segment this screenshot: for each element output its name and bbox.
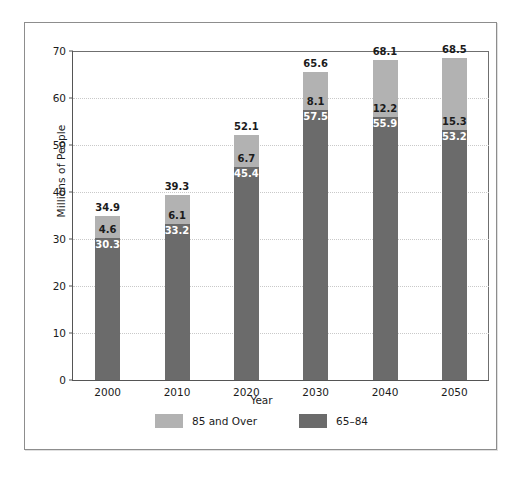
bar-segment-value-85-and-over: 6.1 [165, 211, 190, 221]
legend-swatch-icon [155, 414, 183, 428]
bar-segment-65-84[interactable]: 33.2 [165, 224, 190, 380]
chart-figure-frame: Millions of People 010203040506070 30.34… [24, 22, 497, 450]
bar-segment-85-and-over[interactable]: 6.7 [234, 135, 259, 166]
gridline [73, 333, 489, 334]
bar-total-value: 68.5 [430, 45, 479, 55]
bar-segment-value-65-84: 53.2 [442, 132, 467, 142]
y-tick-label: 30 [53, 233, 66, 245]
bar-segment-value-65-84: 45.4 [234, 169, 259, 179]
legend-item[interactable]: 85 and Over [155, 414, 257, 428]
bar-segment-85-and-over[interactable]: 8.1 [303, 72, 328, 110]
bar-group[interactable]: 53.215.368.52050 [442, 58, 467, 380]
y-tick-label: 20 [53, 280, 66, 292]
bar-segment-85-and-over[interactable]: 12.2 [373, 60, 398, 117]
plot-right-border [488, 51, 489, 380]
gridline [73, 145, 489, 146]
bar-total-value: 65.6 [291, 59, 340, 69]
legend-label: 65–84 [336, 415, 368, 427]
y-tick-mark [69, 333, 73, 334]
y-tick-mark [69, 98, 73, 99]
plot-area: 010203040506070 30.34.634.9200033.26.139… [72, 51, 489, 381]
bar-segment-value-65-84: 33.2 [165, 226, 190, 236]
bar-segment-value-85-and-over: 4.6 [95, 225, 120, 235]
bar-segment-85-and-over[interactable]: 6.1 [165, 195, 190, 224]
bar-segment-value-65-84: 55.9 [373, 119, 398, 129]
legend-swatch-icon [299, 414, 327, 428]
y-tick-label: 70 [53, 45, 66, 57]
bar-segment-65-84[interactable]: 55.9 [373, 117, 398, 380]
gridline [73, 192, 489, 193]
y-tick-label: 0 [59, 374, 66, 386]
bar-segment-value-65-84: 30.3 [95, 240, 120, 250]
bar-group[interactable]: 30.34.634.92000 [95, 216, 120, 380]
y-tick-mark [69, 192, 73, 193]
bar-segment-65-84[interactable]: 53.2 [442, 130, 467, 380]
gridline [73, 286, 489, 287]
chart-legend: 85 and Over65–84 [25, 414, 498, 428]
gridline [73, 239, 489, 240]
y-tick-mark [69, 286, 73, 287]
bar-group[interactable]: 45.46.752.12020 [234, 135, 259, 380]
bar-total-value: 52.1 [222, 122, 271, 132]
y-axis-title: Millions of People [55, 91, 67, 251]
bar-segment-85-and-over[interactable]: 15.3 [442, 58, 467, 130]
bar-segment-value-85-and-over: 12.2 [373, 104, 398, 114]
gridline [73, 98, 489, 99]
y-tick-mark [69, 239, 73, 240]
legend-item[interactable]: 65–84 [299, 414, 368, 428]
bar-group[interactable]: 57.58.165.62030 [303, 72, 328, 380]
y-tick-label: 60 [53, 92, 66, 104]
bar-segment-value-65-84: 57.5 [303, 112, 328, 122]
bar-segment-65-84[interactable]: 57.5 [303, 110, 328, 380]
legend-label: 85 and Over [192, 415, 257, 427]
y-tick-mark [69, 145, 73, 146]
bar-segment-value-85-and-over: 8.1 [303, 97, 328, 107]
bar-segment-85-and-over[interactable]: 4.6 [95, 216, 120, 238]
bar-segment-65-84[interactable]: 30.3 [95, 238, 120, 380]
y-tick-label: 10 [53, 327, 66, 339]
y-tick-mark [69, 51, 73, 52]
bar-total-value: 34.9 [83, 203, 132, 213]
bar-group[interactable]: 33.26.139.32010 [165, 195, 190, 380]
plot-top-border [73, 51, 489, 52]
bar-total-value: 39.3 [153, 182, 202, 192]
y-tick-label: 50 [53, 139, 66, 151]
bar-segment-65-84[interactable]: 45.4 [234, 167, 259, 380]
bar-group[interactable]: 55.912.268.12040 [373, 60, 398, 380]
x-axis-title: Year [25, 394, 498, 406]
y-tick-label: 40 [53, 186, 66, 198]
bar-segment-value-85-and-over: 15.3 [442, 117, 467, 127]
bar-total-value: 68.1 [361, 47, 410, 57]
bar-segment-value-85-and-over: 6.7 [234, 154, 259, 164]
y-tick-mark [69, 380, 73, 381]
